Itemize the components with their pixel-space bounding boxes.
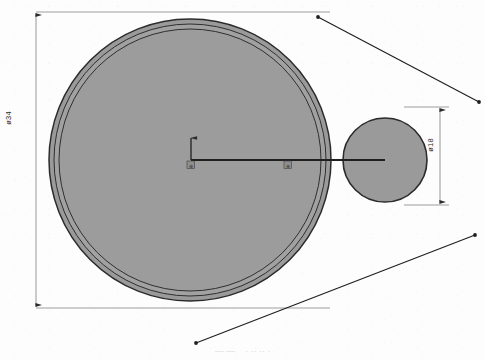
upper-leader-line <box>318 17 479 102</box>
technical-drawing-canvas: ø34 ø18 ⊕ ⊕ — — · · <box>0 0 485 360</box>
origin-label: ⊕ <box>189 163 193 169</box>
dimension-label-small: ø18 <box>426 138 435 152</box>
cad-drawing-svg: ø34 ø18 ⊕ ⊕ <box>0 0 485 360</box>
midpoint-label: ⊕ <box>286 163 290 169</box>
dimension-label-large: ø34 <box>4 111 13 125</box>
